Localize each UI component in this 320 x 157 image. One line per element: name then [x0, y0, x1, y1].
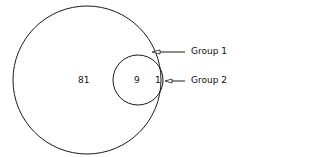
group2-only-count: 1 — [155, 76, 161, 85]
overlap-count: 9 — [134, 76, 140, 85]
group2-label: Group 2 — [191, 76, 227, 85]
group1-arrow — [152, 50, 185, 54]
group1-label: Group 1 — [191, 47, 227, 56]
group1-only-count: 81 — [78, 76, 89, 85]
group2-arrow — [165, 79, 185, 83]
